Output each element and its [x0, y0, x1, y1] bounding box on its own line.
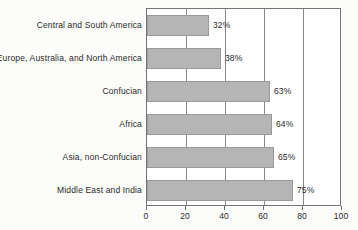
- category-label: Confucian: [102, 86, 142, 96]
- x-tick-mark-0: [146, 206, 147, 210]
- bar: [147, 15, 209, 36]
- value-label: 38%: [225, 53, 242, 63]
- plot-area: [146, 8, 341, 206]
- value-label: 32%: [213, 20, 230, 30]
- x-tick-mark-20: [185, 206, 186, 210]
- value-label: 75%: [297, 185, 314, 195]
- category-label: Central and South America: [37, 20, 142, 30]
- value-label: 65%: [278, 152, 295, 162]
- x-tick-mark-60: [263, 206, 264, 210]
- chart-page: Central and South America32%Europe, Aust…: [0, 0, 358, 230]
- bar: [147, 180, 293, 201]
- bar: [147, 81, 270, 102]
- value-label: 63%: [274, 86, 291, 96]
- x-tick-label-100: 100: [334, 211, 348, 221]
- x-tick-label-80: 80: [297, 211, 307, 221]
- x-tick-mark-40: [224, 206, 225, 210]
- category-label: Middle East and India: [57, 185, 142, 195]
- category-label: Africa: [119, 119, 142, 129]
- bar: [147, 114, 272, 135]
- x-tick-label-0: 0: [144, 211, 149, 221]
- horizontal-bar-chart: Central and South America32%Europe, Aust…: [0, 0, 358, 230]
- category-label: Europe, Australia, and North America: [0, 53, 142, 63]
- x-tick-mark-100: [341, 206, 342, 210]
- x-tick-label-40: 40: [219, 211, 229, 221]
- x-tick-label-60: 60: [258, 211, 268, 221]
- category-label: Asia, non-Confucian: [63, 152, 142, 162]
- bars-layer: [147, 9, 340, 205]
- bar: [147, 147, 274, 168]
- x-tick-mark-80: [302, 206, 303, 210]
- value-label: 64%: [276, 119, 293, 129]
- x-tick-label-20: 20: [180, 211, 190, 221]
- bar: [147, 48, 221, 69]
